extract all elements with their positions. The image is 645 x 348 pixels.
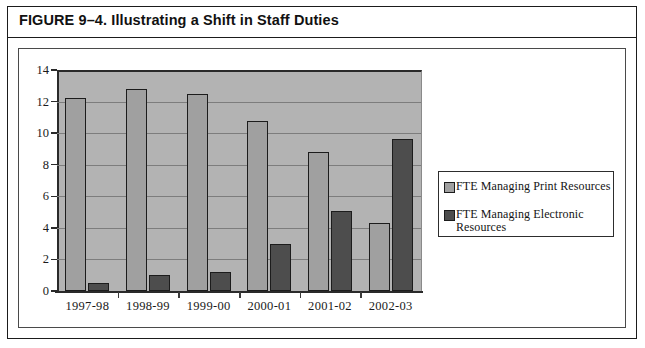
legend-item-print: FTE Managing Print Resources	[444, 180, 612, 193]
legend-swatch-print-icon	[444, 182, 455, 193]
x-axis-label-2000-01: 2000-01	[234, 299, 304, 314]
chart-legend: FTE Managing Print ResourcesFTE Managing…	[438, 171, 614, 237]
x-axis-label-1998-99: 1998-99	[113, 299, 183, 314]
y-axis-label: 8	[23, 158, 49, 173]
bar-1997-98-electronic	[88, 283, 109, 291]
bar-2000-01-electronic	[270, 244, 291, 291]
bar-2000-01-print	[247, 121, 268, 291]
chart-frame: 02468101214 1997-981998-991999-002000-01…	[18, 48, 626, 328]
x-axis-tick	[360, 292, 362, 298]
page-title: FIGURE 9–4. Illustrating a Shift in Staf…	[19, 12, 339, 28]
y-axis-label: 2	[23, 252, 49, 267]
legend-label: FTE Managing Print Resources	[456, 180, 610, 193]
figure-container: FIGURE 9–4. Illustrating a Shift in Staf…	[7, 6, 637, 339]
y-axis-label: 12	[23, 95, 49, 110]
bar-2001-02-electronic	[331, 211, 352, 292]
bar-2002-03-electronic	[392, 139, 413, 291]
x-axis-tick	[239, 292, 241, 298]
y-axis-label: 6	[23, 189, 49, 204]
x-axis-label-1997-98: 1997-98	[52, 299, 122, 314]
figure-title-bar: FIGURE 9–4. Illustrating a Shift in Staf…	[8, 7, 636, 38]
bar-1998-99-electronic	[149, 275, 170, 291]
y-axis-label: 0	[23, 284, 49, 299]
legend-label: FTE Managing Electronic Resources	[456, 208, 612, 234]
bar-1997-98-print	[65, 98, 86, 291]
x-axis-tick	[118, 292, 120, 298]
x-axis-tick	[178, 292, 180, 298]
bar-2001-02-print	[308, 152, 329, 291]
bar-1998-99-print	[126, 89, 147, 291]
bar-2002-03-print	[369, 223, 390, 291]
bars-layer	[57, 70, 421, 291]
x-axis-tick	[300, 292, 302, 298]
legend-swatch-electronic-icon	[444, 210, 455, 221]
x-axis-label-2002-03: 2002-03	[356, 299, 426, 314]
x-axis-label-1999-00: 1999-00	[174, 299, 244, 314]
y-axis-label: 4	[23, 221, 49, 236]
y-axis-label: 14	[23, 63, 49, 78]
legend-item-electronic: FTE Managing Electronic Resources	[444, 208, 612, 234]
y-axis-label: 10	[23, 126, 49, 141]
x-axis-label-2001-02: 2001-02	[295, 299, 365, 314]
bar-1999-00-print	[187, 94, 208, 291]
bar-1999-00-electronic	[210, 272, 231, 291]
